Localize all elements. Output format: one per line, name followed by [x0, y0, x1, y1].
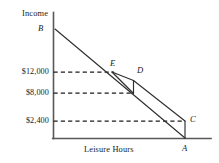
y-tick-label-8000: $8,000	[0, 89, 49, 97]
point-label-D: D	[137, 66, 143, 75]
y-tick-label-12000: $12,000	[0, 68, 49, 76]
y-axis-title: Income	[22, 10, 48, 18]
point-label-C: C	[190, 115, 196, 124]
point-label-A: A	[182, 144, 187, 153]
point-label-E: E	[110, 59, 115, 68]
budget-line-BA	[55, 29, 185, 138]
point-label-B: B	[38, 24, 43, 33]
y-tick-label-2400: $2,400	[0, 117, 49, 125]
budget-constraint-figure: Income Leisure Hours $12,000 $8,000 $2,4…	[0, 0, 219, 163]
segment-E-to-8000	[112, 72, 134, 94]
figure-canvas	[0, 0, 219, 163]
x-axis-title: Leisure Hours	[84, 146, 134, 154]
